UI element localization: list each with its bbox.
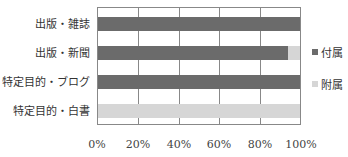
bar-row-2: [98, 75, 300, 89]
x-tick-label: 40%: [167, 138, 191, 151]
legend-label: 付属: [321, 44, 343, 60]
legend-swatch-icon: [312, 81, 318, 87]
x-tick-label: 0%: [88, 138, 105, 151]
bar-segment-1-0: [98, 46, 288, 60]
legend-item-0: 付属: [312, 44, 343, 60]
bar-segment-0-0: [98, 17, 300, 31]
x-tick-label: 80%: [248, 138, 272, 151]
bar-row-0: [98, 17, 300, 31]
legend-item-1: 附属: [312, 76, 343, 92]
bar-row-1: [98, 46, 300, 60]
bar-segment-3-1: [98, 104, 300, 118]
x-tick-label: 60%: [207, 138, 231, 151]
bar-segment-2-0: [98, 75, 300, 89]
category-label: 出版・新聞: [35, 44, 90, 60]
category-label: 出版・雑誌: [35, 15, 90, 31]
x-tick-label: 100%: [285, 138, 316, 151]
legend-label: 附属: [321, 76, 343, 92]
category-label: 特定目的・ブログ: [2, 73, 90, 89]
plot-area: [97, 7, 301, 125]
category-label: 特定目的・白書: [13, 102, 90, 118]
bar-row-3: [98, 104, 300, 118]
legend-swatch-icon: [312, 49, 318, 55]
bar-segment-1-1: [288, 46, 300, 60]
x-tick-label: 20%: [126, 138, 150, 151]
